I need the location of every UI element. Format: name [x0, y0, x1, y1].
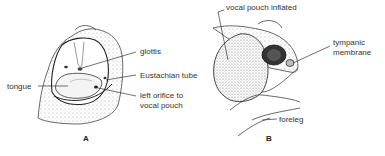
label-foreleg: foreleg — [279, 115, 303, 124]
label-tympanic-line1: tympanic — [333, 38, 365, 47]
label-left-orifice-line2: vocal pouch — [140, 101, 183, 110]
panel-a-letter: A — [83, 134, 89, 143]
label-eustachian-tube: Eustachian tube — [140, 71, 197, 80]
label-tongue: tongue — [7, 82, 31, 91]
panel-a-drawing — [38, 26, 123, 125]
label-left-orifice-line1: left orifice to — [140, 91, 183, 100]
label-glottis: glottis — [140, 47, 161, 56]
panel-b-letter: B — [266, 134, 272, 143]
label-tympanic-line2: membrane — [333, 48, 371, 57]
label-vocal-pouch-inflated: vocal pouch inflated — [226, 3, 297, 12]
